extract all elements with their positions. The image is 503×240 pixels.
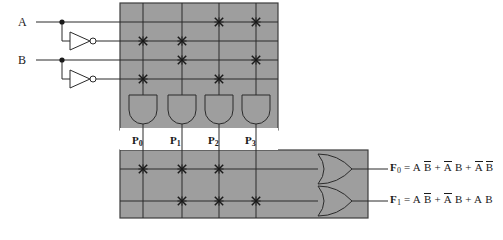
or-plane-box (120, 150, 368, 218)
or-connection-f1-p1[interactable] (177, 196, 186, 205)
and-connection-p3-a[interactable] (251, 17, 260, 26)
or-connection-f0-p0[interactable] (138, 164, 147, 173)
and-connection-p0-bbar[interactable] (138, 74, 147, 83)
or-connection-f0-p1[interactable] (177, 164, 186, 173)
junction-dot-a (59, 19, 64, 24)
or-connection-f1-p3[interactable] (251, 196, 260, 205)
output-equation-f1: F1 = A B + A B + A B (390, 193, 493, 207)
inverter-a-triangle (70, 32, 90, 50)
input-label-b: B (18, 53, 26, 67)
input-label-a: A (18, 15, 27, 29)
and-connection-p2-a[interactable] (214, 17, 223, 26)
output-equation-f0: F0 = A B + A B + A B (390, 161, 493, 175)
inverter-b-triangle (70, 70, 90, 88)
and-connection-p2-bbar[interactable] (214, 74, 223, 83)
pla-diagram: A B P0 P1 P2 P3 F0 = A B + A B + A B F1 … (0, 0, 503, 240)
or-connection-f0-p2[interactable] (214, 164, 223, 173)
and-connection-p1-abar[interactable] (177, 36, 186, 45)
or-connection-f1-p2[interactable] (214, 196, 223, 205)
and-connection-p1-b[interactable] (177, 55, 186, 64)
junction-dot-b (59, 57, 64, 62)
and-connection-p3-b[interactable] (251, 55, 260, 64)
and-connection-p0-abar[interactable] (138, 36, 147, 45)
